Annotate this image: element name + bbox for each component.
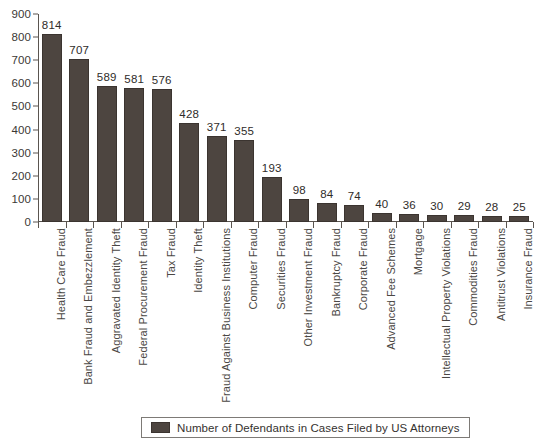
x-axis-category-label: Tax Fraud bbox=[166, 228, 177, 278]
bar bbox=[234, 140, 254, 222]
bar-value-label: 36 bbox=[403, 199, 416, 211]
x-axis-category-label: Commodities Fraud bbox=[468, 228, 479, 326]
x-axis-category-label: Mortgage bbox=[413, 228, 424, 275]
bar-value-label: 84 bbox=[320, 188, 333, 200]
bar bbox=[344, 205, 364, 222]
x-axis-category-label: Identity Theft bbox=[193, 228, 204, 293]
x-axis-labels: Health Care FraudBank Fraud and Embezzle… bbox=[38, 228, 533, 393]
bar-slot: 98 bbox=[289, 14, 309, 222]
bar-chart: 9008007006005004003002001000 81470758958… bbox=[0, 0, 542, 447]
bar-slot: 84 bbox=[317, 14, 337, 222]
bar-value-label: 30 bbox=[430, 200, 443, 212]
bar bbox=[42, 34, 62, 222]
x-axis-category-label: Computer Fraud bbox=[248, 228, 259, 310]
bar-slot: 576 bbox=[152, 14, 172, 222]
y-axis-tick-label: 500 bbox=[12, 100, 32, 112]
bar-value-label: 581 bbox=[124, 73, 144, 85]
x-axis-category-label: Insurance Fraud bbox=[523, 228, 534, 310]
y-axis-tick-label: 200 bbox=[12, 170, 32, 182]
bar-value-label: 28 bbox=[485, 201, 498, 213]
x-axis-category-label: Intellectual Property Violations bbox=[441, 228, 452, 379]
y-axis-tick-label: 300 bbox=[12, 147, 32, 159]
x-axis-category-label: Securities Fraud bbox=[276, 228, 287, 310]
bar-slot: 589 bbox=[97, 14, 117, 222]
bar-value-label: 355 bbox=[234, 125, 254, 137]
bar-value-label: 29 bbox=[458, 200, 471, 212]
x-axis-category-label: Aggravated Identity Theft bbox=[111, 228, 122, 353]
bar-value-label: 98 bbox=[293, 184, 306, 196]
bar-slot: 30 bbox=[427, 14, 447, 222]
bar-slot: 581 bbox=[124, 14, 144, 222]
x-axis-category-label: Fraud Against Business Institutions bbox=[221, 228, 232, 403]
y-axis-tick-label: 900 bbox=[12, 8, 32, 20]
bar-value-label: 814 bbox=[42, 19, 62, 31]
bar-slot: 74 bbox=[344, 14, 364, 222]
x-axis-category-label: Other Investment Fraud bbox=[303, 228, 314, 346]
bar-slot: 428 bbox=[179, 14, 199, 222]
bar-value-label: 40 bbox=[375, 198, 388, 210]
bar-value-label: 576 bbox=[152, 74, 172, 86]
bar bbox=[262, 177, 282, 222]
x-axis-category-label: Advanced Fee Schemes bbox=[386, 228, 397, 350]
bar bbox=[69, 59, 89, 222]
bar bbox=[289, 199, 309, 222]
bar-slot: 28 bbox=[482, 14, 502, 222]
bar bbox=[399, 214, 419, 222]
x-axis-category-label: Federal Procurement Fraud bbox=[138, 228, 149, 366]
bar-slot: 25 bbox=[509, 14, 529, 222]
bar-slot: 371 bbox=[207, 14, 227, 222]
bar-value-label: 74 bbox=[348, 190, 361, 202]
legend-swatch-icon bbox=[151, 422, 170, 433]
y-axis-tick-label: 700 bbox=[12, 54, 32, 66]
y-axis-tick-label: 600 bbox=[12, 77, 32, 89]
x-axis-category-label: Health Care Fraud bbox=[56, 228, 67, 320]
x-axis-category-label: Bankruptcy Fraud bbox=[331, 228, 342, 316]
x-axis-category-label: Antitrust Violations bbox=[496, 228, 507, 321]
bar-slot: 707 bbox=[69, 14, 89, 222]
bar-slot: 814 bbox=[42, 14, 62, 222]
legend-label: Number of Defendants in Cases Filed by U… bbox=[177, 422, 460, 434]
y-axis-tick-label: 400 bbox=[12, 124, 32, 136]
bar-slot: 36 bbox=[399, 14, 419, 222]
bar-value-label: 589 bbox=[97, 71, 117, 83]
bar-value-label: 707 bbox=[69, 44, 89, 56]
bar-slot: 355 bbox=[234, 14, 254, 222]
bar bbox=[207, 136, 227, 222]
bar bbox=[427, 215, 447, 222]
bar-value-label: 193 bbox=[262, 162, 282, 174]
x-axis-category-label: Bank Fraud and Embezzlement bbox=[83, 228, 94, 385]
y-axis-tick-label: 100 bbox=[12, 193, 32, 205]
bar-value-label: 25 bbox=[513, 201, 526, 213]
bars-layer: 8147075895815764283713551939884744036302… bbox=[38, 14, 533, 222]
bar bbox=[372, 213, 392, 222]
bar-slot: 193 bbox=[262, 14, 282, 222]
x-axis-category-label: Corporate Fraud bbox=[358, 228, 369, 310]
y-axis-tick-label: 800 bbox=[12, 31, 32, 43]
bar-slot: 40 bbox=[372, 14, 392, 222]
bar bbox=[454, 215, 474, 222]
bar bbox=[152, 89, 172, 222]
chart-legend: Number of Defendants in Cases Filed by U… bbox=[141, 417, 470, 438]
bar bbox=[97, 86, 117, 222]
bar bbox=[124, 88, 144, 222]
y-axis-tick-label: 0 bbox=[25, 216, 32, 228]
bar-value-label: 371 bbox=[207, 121, 227, 133]
y-axis: 9008007006005004003002001000 bbox=[0, 14, 38, 222]
bar-value-label: 428 bbox=[179, 108, 199, 120]
bar bbox=[179, 123, 199, 222]
bar-slot: 29 bbox=[454, 14, 474, 222]
bar bbox=[317, 203, 337, 222]
